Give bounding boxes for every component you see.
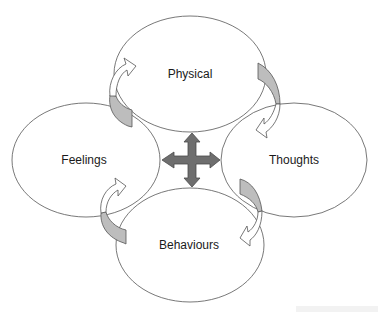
cycle-diagram: Physical Feelings Thoughts Behaviours bbox=[0, 0, 378, 312]
curved-arrow-tail-icon bbox=[110, 95, 132, 127]
physical-label: Physical bbox=[168, 67, 213, 81]
curved-arrow-tail-icon bbox=[258, 63, 280, 104]
node-thoughts: Thoughts bbox=[221, 103, 367, 217]
image-edge-strip bbox=[296, 306, 378, 312]
curved-arrow-head-icon bbox=[101, 178, 126, 213]
curved-arrow-head-icon bbox=[240, 211, 262, 246]
thoughts-label: Thoughts bbox=[269, 153, 319, 167]
curved-arrow-tail-icon bbox=[240, 179, 262, 212]
behaviours-label: Behaviours bbox=[159, 238, 219, 252]
curved-arrow-head-icon bbox=[256, 104, 280, 138]
node-feelings: Feelings bbox=[12, 103, 160, 217]
node-behaviours: Behaviours bbox=[116, 188, 264, 302]
arrow-physical-to-thoughts bbox=[256, 63, 280, 138]
arrow-behaviours-to-feelings bbox=[101, 178, 126, 244]
feelings-label: Feelings bbox=[61, 153, 106, 167]
curved-arrow-head-icon bbox=[110, 58, 136, 96]
node-physical: Physical bbox=[114, 16, 266, 132]
curved-arrow-tail-icon bbox=[101, 212, 126, 244]
arrow-feelings-to-physical bbox=[110, 58, 136, 127]
four-way-arrow-icon bbox=[162, 133, 220, 187]
